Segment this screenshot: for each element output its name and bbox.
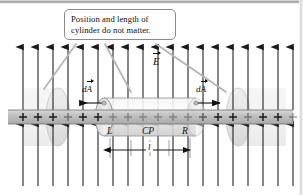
area-vector-right-symbol: A — [201, 84, 207, 94]
area-vector-left-arrow — [80, 101, 106, 105]
callout-line-2: cylinder do not matter. — [71, 25, 170, 36]
curved-surface-label: CP — [142, 126, 154, 136]
electric-field-label: E — [153, 56, 159, 67]
callout-line-1: Position and length of — [71, 14, 170, 25]
length-label: l — [146, 142, 153, 152]
area-vector-left-label: dA — [82, 84, 92, 94]
area-vector-left-symbol: A — [87, 84, 93, 94]
area-vector-right-label: dA — [196, 84, 206, 94]
left-cap-label: L — [107, 126, 112, 136]
electric-field-symbol: E — [153, 56, 159, 67]
physics-figure: Position and length of cylinder do not m… — [0, 0, 303, 195]
callout-note: Position and length of cylinder do not m… — [64, 9, 176, 40]
right-cap-label: R — [182, 126, 188, 136]
area-vector-right-arrow — [194, 101, 220, 105]
